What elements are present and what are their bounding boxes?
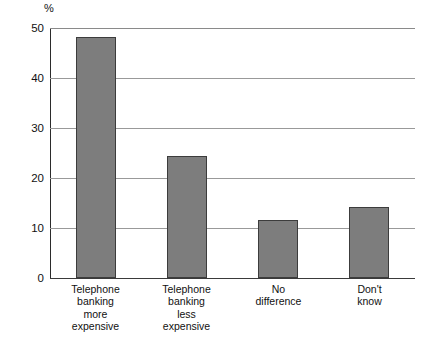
y-tick-label-30: 30 bbox=[8, 122, 44, 134]
bar-2 bbox=[167, 156, 207, 278]
category-label-1: Telephonebankingmoreexpensive bbox=[50, 283, 141, 333]
y-axis-unit-label: % bbox=[44, 2, 54, 14]
gridline-50 bbox=[50, 28, 415, 29]
category-label-line: expensive bbox=[141, 320, 232, 332]
category-label-line: more bbox=[50, 308, 141, 320]
y-tick-label-10: 10 bbox=[8, 222, 44, 234]
bar-3 bbox=[258, 220, 298, 278]
bar-1 bbox=[76, 37, 116, 278]
category-label-line: Telephone bbox=[141, 283, 232, 295]
category-label-3: Nodifference bbox=[233, 283, 324, 308]
category-label-line: Don't bbox=[324, 283, 415, 295]
y-tick-label-0: 0 bbox=[8, 272, 44, 284]
category-label-line: less bbox=[141, 308, 232, 320]
gridline-0 bbox=[50, 278, 415, 279]
y-axis-tick-labels: 01020304050 bbox=[0, 0, 44, 337]
bar-4 bbox=[349, 207, 389, 278]
category-label-line: know bbox=[324, 295, 415, 307]
category-label-line: No bbox=[233, 283, 324, 295]
y-tick-label-40: 40 bbox=[8, 72, 44, 84]
x-axis-category-labels: TelephonebankingmoreexpensiveTelephoneba… bbox=[50, 283, 415, 337]
category-label-line: banking bbox=[141, 295, 232, 307]
category-label-line: banking bbox=[50, 295, 141, 307]
category-label-line: difference bbox=[233, 295, 324, 307]
category-label-2: Telephonebankinglessexpensive bbox=[141, 283, 232, 333]
y-tick-label-50: 50 bbox=[8, 22, 44, 34]
category-label-line: expensive bbox=[50, 320, 141, 332]
bar-chart: % 01020304050 Telephonebankingmoreexpens… bbox=[0, 0, 427, 337]
y-tick-label-20: 20 bbox=[8, 172, 44, 184]
category-label-line: Telephone bbox=[50, 283, 141, 295]
category-label-4: Don'tknow bbox=[324, 283, 415, 308]
plot-area bbox=[50, 28, 415, 278]
